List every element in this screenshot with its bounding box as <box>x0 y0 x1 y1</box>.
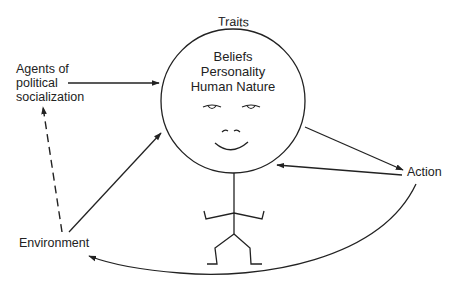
agents-node: Agents of political socialization <box>16 62 84 104</box>
environment-node: Environment <box>19 236 89 250</box>
edge-action-to-traits <box>277 165 402 175</box>
head-line-human-nature: Human Nature <box>183 79 283 94</box>
edge-action-to-environment <box>89 184 416 274</box>
smile-icon <box>215 142 248 150</box>
head-line-personality: Personality <box>183 64 283 79</box>
edge-environment-to-agents-dashed <box>43 107 62 232</box>
edge-traits-to-action <box>305 127 403 170</box>
agents-line-3: socialization <box>16 90 84 104</box>
nose-icon <box>222 130 240 132</box>
agents-line-2: political <box>16 76 84 90</box>
eyes-icon <box>203 105 260 109</box>
head-text: Beliefs Personality Human Nature <box>183 49 283 94</box>
head-line-beliefs: Beliefs <box>183 49 283 64</box>
stick-figure-body <box>204 173 264 264</box>
edge-environment-to-traits <box>69 133 161 232</box>
agents-line-1: Agents of <box>16 62 84 76</box>
action-node: Action <box>407 165 442 179</box>
traits-label: Traits <box>218 14 249 29</box>
